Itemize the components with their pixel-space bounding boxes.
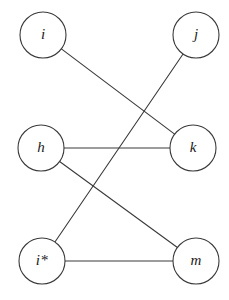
graph-canvas: ijhki*m xyxy=(0,0,229,300)
graph-diagram: ijhki*m xyxy=(0,0,229,300)
edge-layer xyxy=(55,49,183,261)
node-m: m xyxy=(173,238,219,284)
node-is: i* xyxy=(19,238,65,284)
node-label-k: k xyxy=(190,139,197,155)
node-h: h xyxy=(18,125,64,171)
edge-h-m xyxy=(60,162,178,248)
node-k: k xyxy=(170,125,216,171)
node-label-h: h xyxy=(37,139,45,155)
node-j: j xyxy=(173,12,219,58)
node-i: i xyxy=(20,12,66,58)
node-label-is: i* xyxy=(36,252,49,268)
node-label-m: m xyxy=(191,252,202,268)
node-label-i: i xyxy=(41,26,45,42)
